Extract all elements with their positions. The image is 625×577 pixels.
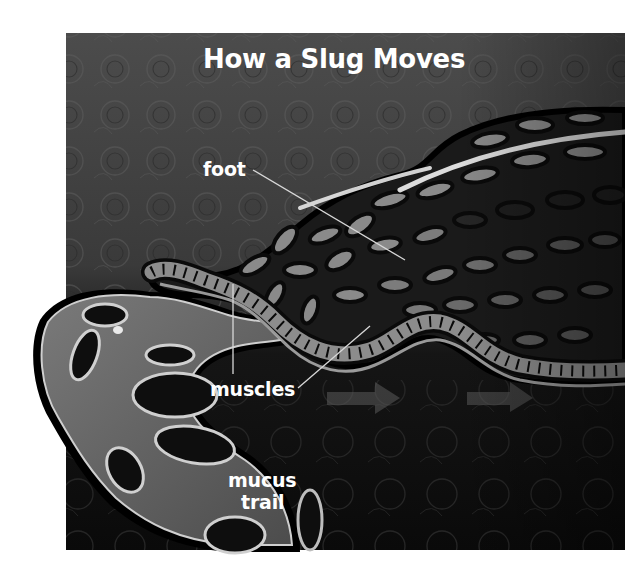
muscles-label: muscles [210,378,295,400]
mucus-trail-label-line1: mucus [228,469,296,491]
diagram-title: How a Slug Moves [203,44,465,74]
foot-label: foot [203,158,246,180]
mucus-trail-label-line2: trail [241,491,284,513]
shading-overlay [66,33,625,550]
slug-movement-diagram: How a Slug Moves foot muscles mucus trai… [0,0,625,577]
